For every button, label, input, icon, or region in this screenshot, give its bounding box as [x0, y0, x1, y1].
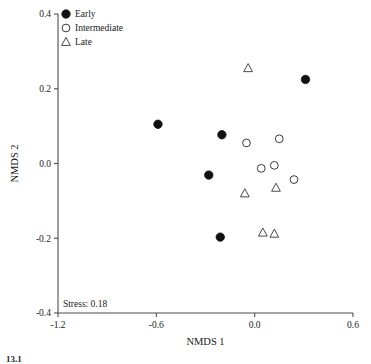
x-tick-label: 0.0: [249, 320, 261, 330]
legend-group: EarlyIntermediateLate: [62, 9, 123, 47]
data-point-late: [270, 229, 279, 237]
tick-label-group: -1.2-0.60.00.60.40.20.0-0.2-0.4: [36, 9, 359, 330]
y-tick-label: 0.0: [39, 159, 51, 169]
x-tick-label: -0.6: [149, 320, 164, 330]
data-point-intermediate: [243, 139, 251, 147]
data-point-intermediate: [290, 176, 298, 184]
stress-annotation: Stress: 0.18: [63, 299, 108, 309]
legend-label-late: Late: [75, 37, 92, 47]
y-tick-label: -0.2: [36, 234, 51, 244]
legend-label-intermediate: Intermediate: [75, 23, 123, 33]
y-tick-label: 0.4: [39, 9, 51, 19]
x-tick-label: -1.2: [50, 320, 65, 330]
figure-caption: 13.1: [6, 354, 22, 364]
figure-caption-group: 13.1: [6, 354, 22, 364]
data-point-early: [205, 171, 213, 179]
data-point-late: [258, 228, 267, 236]
y-tick-label: -0.4: [36, 308, 51, 318]
legend-marker-early: [62, 10, 70, 18]
data-point-late: [244, 64, 253, 72]
data-point-early: [154, 120, 162, 128]
data-point-intermediate: [275, 135, 283, 143]
data-point-group: [154, 64, 310, 242]
data-point-intermediate: [270, 161, 278, 169]
chart-svg: -1.2-0.60.00.60.40.20.0-0.2-0.4 EarlyInt…: [0, 0, 371, 364]
axes-group: [58, 14, 353, 313]
legend-label-early: Early: [75, 9, 96, 19]
nmds-scatter-plot: -1.2-0.60.00.60.40.20.0-0.2-0.4 EarlyInt…: [0, 0, 371, 364]
data-point-early: [301, 75, 309, 83]
legend-marker-late: [62, 37, 71, 45]
annotation-group: Stress: 0.18: [63, 299, 108, 309]
figure-root: -1.2-0.60.00.60.40.20.0-0.2-0.4 EarlyInt…: [0, 0, 371, 364]
x-tick-label: 0.6: [347, 320, 359, 330]
data-point-late: [272, 183, 281, 191]
legend-marker-intermediate: [62, 24, 70, 32]
x-axis-title: NMDS 1: [186, 336, 224, 347]
data-point-early: [216, 233, 224, 241]
y-tick-label: 0.2: [39, 84, 51, 94]
tick-group: [54, 14, 353, 317]
y-axis-title: NMDS 2: [9, 144, 20, 182]
data-point-intermediate: [257, 164, 265, 172]
data-point-early: [218, 131, 226, 139]
data-point-late: [240, 189, 249, 197]
